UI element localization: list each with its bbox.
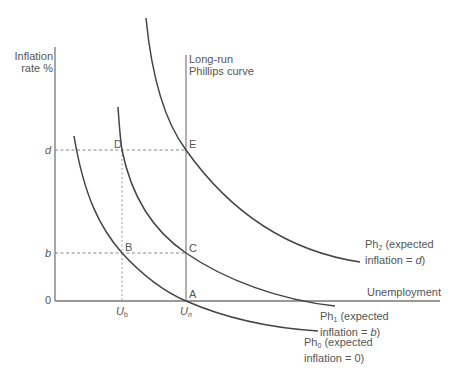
ph1-label: Ph1 (expected inflation = b) bbox=[320, 310, 389, 338]
ph0-line2: inflation = 0) bbox=[304, 352, 373, 364]
lrpc-label-line1: Long-run bbox=[189, 53, 254, 65]
ph1-curve bbox=[118, 107, 335, 306]
ph0-curve bbox=[74, 136, 318, 331]
point-c: C bbox=[189, 242, 197, 254]
ph1-line2-post: ) bbox=[377, 326, 381, 338]
tick-d: d bbox=[45, 144, 51, 156]
ph0-line1: (expected bbox=[321, 336, 372, 348]
tick-ub: Ub bbox=[116, 305, 128, 321]
tick-ub-main: U bbox=[116, 305, 124, 317]
y-axis-label-line2: rate % bbox=[11, 62, 53, 74]
y-axis-label-line1: Inflation bbox=[11, 50, 53, 62]
y-axis-label: Inflation rate % bbox=[11, 50, 53, 74]
lrpc-label: Long-run Phillips curve bbox=[189, 53, 254, 77]
tick-un-main: U bbox=[180, 305, 188, 317]
x-axis-label: Unemployment bbox=[367, 286, 441, 298]
tick-b: b bbox=[45, 247, 51, 259]
ph2-name: Ph bbox=[365, 238, 378, 250]
ph1-name: Ph bbox=[320, 310, 333, 322]
point-b: B bbox=[125, 241, 132, 253]
ph2-label: Ph2 (expected inflation = d) bbox=[365, 238, 434, 266]
point-a: A bbox=[189, 288, 196, 300]
tick-un: Un bbox=[180, 305, 192, 321]
tick-zero: 0 bbox=[45, 294, 51, 306]
ph0-label: Ph0 (expected inflation = 0) bbox=[304, 336, 373, 364]
ph0-name: Ph bbox=[304, 336, 317, 348]
point-e: E bbox=[189, 138, 196, 150]
ph2-line2-post: ) bbox=[422, 254, 426, 266]
tick-un-sub: n bbox=[188, 311, 192, 318]
point-d: D bbox=[114, 138, 122, 150]
tick-ub-sub: b bbox=[124, 311, 128, 318]
ph1-line1: (expected bbox=[337, 310, 388, 322]
ph2-line2-pre: inflation = bbox=[365, 254, 415, 266]
ph2-line1: (expected bbox=[382, 238, 433, 250]
lrpc-label-line2: Phillips curve bbox=[189, 65, 254, 77]
